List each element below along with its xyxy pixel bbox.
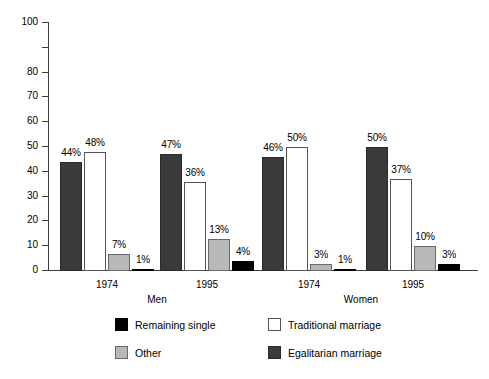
bar-value-label: 1%	[328, 255, 362, 265]
legend-swatch-icon	[115, 346, 128, 359]
plot-area: 01020304050607080100 44%48%7%1%47%36%13%…	[0, 0, 489, 300]
bar-value-label: 3%	[432, 250, 466, 260]
legend-item: Egalitarian marriage	[268, 346, 382, 359]
bar-value-label: 13%	[202, 225, 236, 235]
bar	[232, 261, 254, 271]
legend-label: Egalitarian marriage	[288, 347, 382, 359]
legend-label: Other	[135, 347, 161, 359]
x-axis-section-label: Men	[117, 295, 197, 305]
bar-value-label: 7%	[102, 240, 136, 250]
bar	[132, 269, 154, 271]
legend-label: Traditional marriage	[288, 319, 381, 331]
bar-value-label: 47%	[154, 140, 188, 150]
bar	[84, 152, 106, 271]
legend-item: Other	[115, 346, 161, 359]
bar-value-label: 50%	[360, 133, 394, 143]
x-axis-year-label: 1995	[150, 280, 264, 290]
bar-value-label: 48%	[78, 138, 112, 148]
bar-value-label: 36%	[178, 168, 212, 178]
legend-label: Remaining single	[135, 319, 216, 331]
bar	[60, 162, 82, 271]
bar	[390, 179, 412, 271]
legend-item: Traditional marriage	[268, 318, 381, 331]
legend: Remaining singleTraditional marriageOthe…	[115, 318, 415, 368]
bar-value-label: 10%	[408, 232, 442, 242]
bar-value-label: 4%	[226, 247, 260, 257]
x-axis-section-label: Women	[321, 295, 401, 305]
bar-chart: 01020304050607080100 44%48%7%1%47%36%13%…	[0, 0, 489, 379]
bar	[310, 264, 332, 271]
bar-value-label: 37%	[384, 165, 418, 175]
bars-layer: 44%48%7%1%47%36%13%4%46%50%3%1%50%37%10%…	[0, 0, 489, 271]
legend-swatch-icon	[268, 318, 281, 331]
x-axis-year-label: 1995	[356, 280, 470, 290]
bar	[438, 264, 460, 271]
bar-value-label: 50%	[280, 133, 314, 143]
bar-value-label: 46%	[256, 143, 290, 153]
legend-swatch-icon	[115, 318, 128, 331]
x-axis-year-label: 1974	[252, 280, 366, 290]
bar	[262, 157, 284, 271]
legend-swatch-icon	[268, 346, 281, 359]
x-axis-year-label: 1974	[50, 280, 164, 290]
bar	[334, 269, 356, 271]
bar-value-label: 1%	[126, 255, 160, 265]
legend-item: Remaining single	[115, 318, 216, 331]
bar-value-label: 44%	[54, 148, 88, 158]
